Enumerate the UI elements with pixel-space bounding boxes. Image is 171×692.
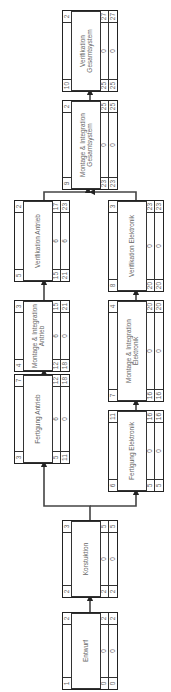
earliest-start: 12 — [53, 359, 60, 371]
node-duration: 4 — [109, 301, 117, 313]
node-montage-gesamtsystem[interactable]: 92 Montage & Integration Gesamtsystem 23… — [62, 100, 118, 190]
node-id: 1 — [63, 677, 71, 689]
earliest-finish: 25 — [101, 101, 108, 113]
node-id: 2 — [63, 585, 71, 597]
node-title: Verifikation Elektronik — [118, 201, 147, 291]
earliest-finish: 20 — [147, 301, 154, 313]
latest-finish: 20 — [155, 301, 163, 313]
node-duration: 3 — [15, 301, 23, 313]
earliest-finish: 23 — [147, 201, 154, 213]
earliest-start: 0 — [101, 677, 108, 689]
total-float: 0 — [101, 113, 108, 177]
free-float: 0 — [155, 423, 163, 479]
latest-start: 18 — [61, 359, 69, 371]
total-float: 0 — [147, 423, 154, 479]
earliest-finish: 27 — [101, 11, 108, 23]
latest-finish: 23 — [61, 201, 69, 213]
node-id: 8 — [109, 279, 117, 291]
latest-finish: 18 — [61, 375, 69, 387]
latest-start: 2 — [109, 585, 117, 597]
latest-start: 23 — [109, 177, 117, 189]
total-float: 0 — [101, 533, 108, 585]
earliest-finish: 17 — [53, 201, 60, 213]
node-verifikation-gesamtsystem[interactable]: 102 Verifikation Gesamtsystem 25027 2502… — [62, 10, 118, 92]
free-float: 0 — [155, 313, 163, 389]
node-title: Fertigung Elektronik — [118, 411, 147, 491]
total-float: 0 — [101, 625, 108, 677]
node-duration: 2 — [63, 101, 71, 113]
node-title: Montage & Integration Gesamtsystem — [72, 101, 101, 189]
edge-2-6 — [90, 492, 136, 506]
earliest-start: 2 — [101, 585, 108, 597]
node-title: Montage & Integration Antrieb — [24, 301, 53, 371]
node-title: Fertigung Antrieb — [24, 375, 53, 463]
latest-start: 25 — [109, 79, 117, 91]
node-title: Verifikation Antrieb — [24, 201, 53, 281]
latest-start: 5 — [155, 479, 163, 491]
total-float: 6 — [53, 213, 60, 269]
latest-start: 21 — [61, 269, 69, 281]
latest-finish: 23 — [155, 201, 163, 213]
earliest-start: 5 — [53, 451, 60, 463]
free-float: 0 — [109, 113, 117, 177]
node-title: Korstuktion — [72, 521, 101, 597]
node-title: Montage & Integration Elektronik — [118, 301, 147, 401]
earliest-start: 20 — [147, 279, 154, 291]
total-float: 0 — [147, 313, 154, 389]
free-float: 0 — [61, 313, 69, 359]
node-fertigung-elektronik[interactable]: 611 Fertigung Elektronik 5016 5016 — [108, 410, 164, 492]
latest-finish: 16 — [155, 411, 163, 423]
earliest-finish: 15 — [53, 301, 60, 313]
latest-start: 0 — [109, 677, 117, 689]
edge-5-9 — [44, 190, 88, 200]
latest-start: 20 — [155, 279, 163, 291]
node-duration: 2 — [15, 201, 23, 213]
total-float: 0 — [101, 23, 108, 79]
node-id: 6 — [109, 479, 117, 491]
earliest-start: 5 — [147, 479, 154, 491]
earliest-finish: 5 — [101, 521, 108, 533]
free-float: 0 — [155, 213, 163, 279]
earliest-finish: 2 — [101, 613, 108, 625]
node-id: 7 — [109, 389, 117, 401]
node-id: 10 — [63, 79, 71, 91]
total-float: 6 — [53, 387, 60, 451]
latest-finish: 27 — [109, 11, 117, 23]
node-verifikation-elektronik[interactable]: 83 Verifikation Elektronik 20023 20023 — [108, 200, 164, 292]
free-float: 6 — [61, 213, 69, 269]
latest-start: 11 — [61, 451, 69, 463]
earliest-finish: 16 — [147, 411, 154, 423]
node-id: 9 — [63, 177, 71, 189]
earliest-start: 25 — [101, 79, 108, 91]
free-float: 0 — [61, 387, 69, 451]
node-montage-elektronik[interactable]: 74 Montage & Integration Elektronik 1602… — [108, 300, 164, 402]
node-duration: 11 — [109, 411, 117, 423]
earliest-start: 23 — [101, 177, 108, 189]
earliest-start: 16 — [147, 389, 154, 401]
node-title: Verifikation Gesamtsystem — [72, 11, 101, 91]
earliest-start: 15 — [53, 269, 60, 281]
node-id: 5 — [15, 269, 23, 281]
latest-start: 16 — [155, 389, 163, 401]
latest-finish: 2 — [109, 613, 117, 625]
node-id: 4 — [15, 359, 23, 371]
node-duration: 2 — [63, 11, 71, 23]
edge-8-9 — [92, 192, 136, 200]
node-duration: 3 — [63, 521, 71, 533]
node-duration: 3 — [109, 201, 117, 213]
free-float: 0 — [109, 533, 117, 585]
latest-finish: 25 — [109, 101, 117, 113]
earliest-finish: 12 — [53, 375, 60, 387]
edge-2-3 — [44, 464, 90, 520]
node-entwurf[interactable]: 12 Entwurf 002 002 — [62, 612, 118, 690]
node-konstruktion[interactable]: 23 Korstuktion 205 205 — [62, 520, 118, 598]
node-montage-antrieb[interactable]: 43 Montage & Integration Antrieb 12615 1… — [14, 300, 70, 372]
node-verifikation-antrieb[interactable]: 52 Verifikation Antrieb 15617 21623 — [14, 200, 70, 282]
node-duration: 7 — [15, 375, 23, 387]
latest-finish: 5 — [109, 521, 117, 533]
total-float: 6 — [53, 313, 60, 359]
node-fertigung-antrieb[interactable]: 37 Fertigung Antrieb 5612 11018 — [14, 374, 70, 464]
node-id: 3 — [15, 451, 23, 463]
free-float: 0 — [109, 625, 117, 677]
node-title: Entwurf — [72, 613, 101, 689]
